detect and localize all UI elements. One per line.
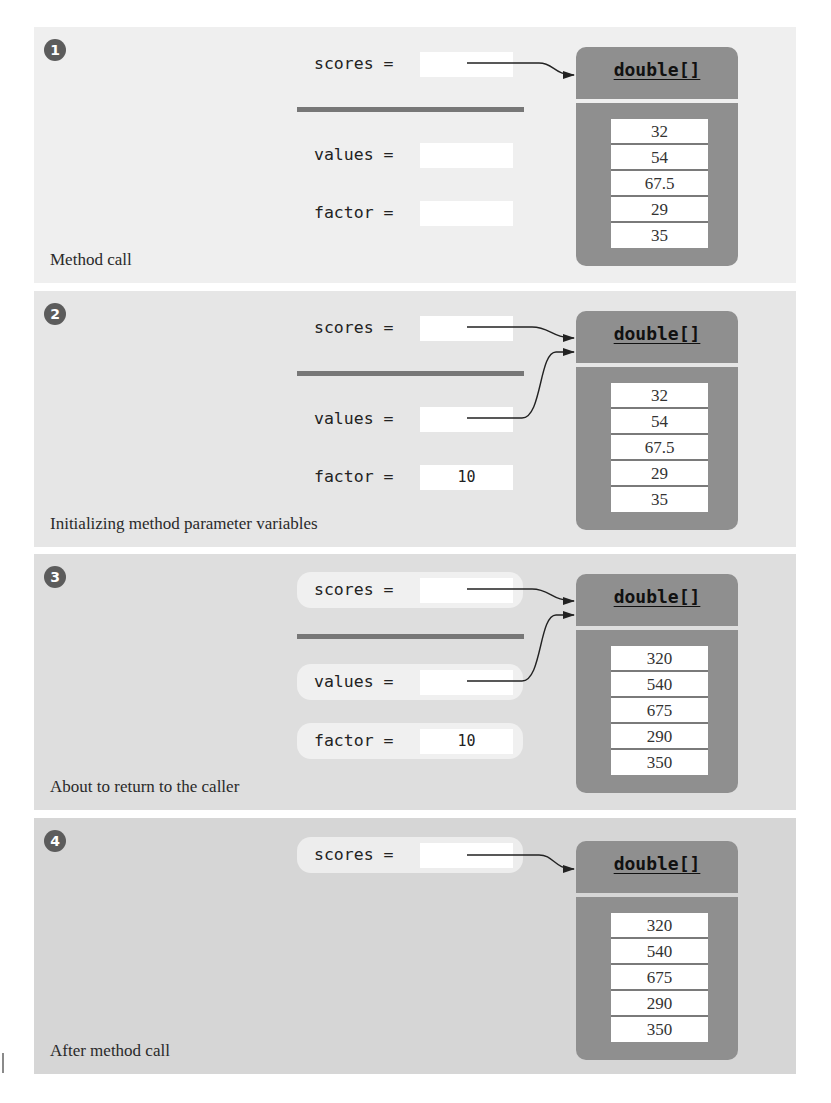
panel-step-1: 1 scores = values = factor = double[] 32… (34, 27, 796, 283)
margin-mark (2, 1053, 4, 1073)
panel-step-2: 2 scores = values = factor = 10 double[]… (34, 291, 796, 547)
values-arrow-icon (467, 615, 574, 681)
step-caption: Initializing method parameter variables (50, 514, 318, 534)
reference-arrows (34, 291, 796, 547)
reference-arrows (34, 554, 796, 810)
panel-step-4: 4 scores = double[] 320 540 675 290 350 … (34, 818, 796, 1074)
scores-arrow-icon (467, 327, 574, 338)
reference-arrows (34, 818, 796, 1074)
reference-arrows (34, 27, 796, 283)
step-caption: After method call (50, 1041, 170, 1061)
scores-arrow-icon (467, 63, 574, 75)
panel-step-3: 3 scores = values = factor = 10 double[]… (34, 554, 796, 810)
step-caption: Method call (50, 250, 132, 270)
scores-arrow-icon (467, 855, 574, 869)
step-caption: About to return to the caller (50, 777, 239, 797)
scores-arrow-icon (467, 589, 574, 601)
values-arrow-icon (467, 352, 574, 418)
